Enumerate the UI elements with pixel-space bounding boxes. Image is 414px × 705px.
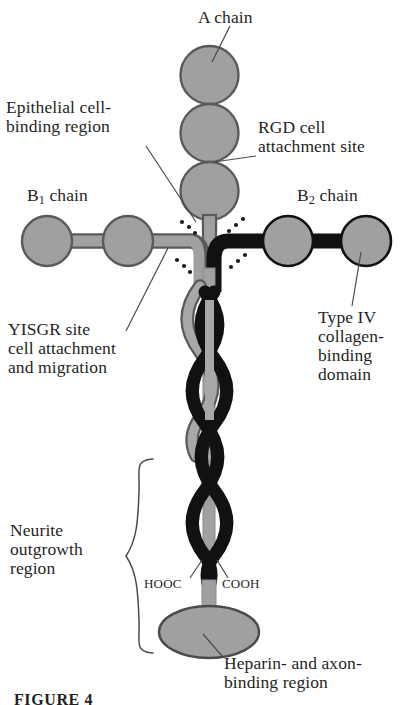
label-yisgr-site: YISGR site cell attachment and migration <box>8 320 116 377</box>
label-b2-chain-suffix: chain <box>315 185 358 205</box>
label-heparin-and-axon-binding-region: Heparin- and axon- binding region <box>224 654 362 692</box>
b1-chain-arm <box>22 216 202 286</box>
b1-chain-globular-domain-1 <box>22 216 72 266</box>
leader-hooc <box>190 560 202 578</box>
terminal-globular-domain <box>159 606 259 658</box>
figure-caption-label: FIGURE 4 <box>14 691 93 705</box>
b2-chain-globular-domain-2 <box>263 216 313 266</box>
label-b1-chain-prefix: B <box>27 185 39 205</box>
label-b1-chain: B1 chain <box>27 186 88 207</box>
coiled-coil-core-highlight <box>205 300 214 420</box>
laminin-figure: A chain Epithelial cell- binding region … <box>0 0 414 705</box>
b2-chain-arm <box>214 216 391 292</box>
a-chain-globular-domain-1 <box>181 46 239 104</box>
label-epithelial-cell-binding-region: Epithelial cell- binding region <box>6 98 111 136</box>
b1-chain-globular-domain-2 <box>103 216 153 266</box>
label-b2-chain: B2 chain <box>297 186 358 207</box>
terminal-domain-group <box>159 580 259 658</box>
b2-chain-globular-domain-1 <box>341 216 391 266</box>
label-neurite-outgrowth-region: Neurite outgrowth region <box>10 521 83 578</box>
label-rgd-cell-attachment-site: RGD cell attachment site <box>258 118 365 156</box>
label-b2-chain-prefix: B <box>297 185 309 205</box>
label-type-iv-collagen-binding-domain: Type IV collagen- binding domain <box>318 308 384 384</box>
label-a-chain: A chain <box>198 8 253 27</box>
coiled-coil-rod <box>187 268 227 608</box>
neurite-outgrowth-brace <box>126 459 153 653</box>
label-cooh-terminus: COOH <box>222 577 260 591</box>
a-chain-globular-domain-2 <box>181 104 239 162</box>
label-b1-chain-suffix: chain <box>45 185 88 205</box>
label-hooc-terminus: HOOC <box>144 577 182 591</box>
